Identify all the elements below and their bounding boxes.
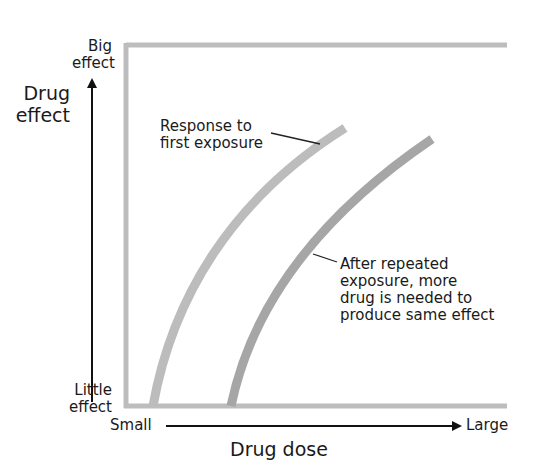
annotation-repeated-exposure: After repeated exposure, more drug is ne…	[340, 256, 494, 324]
y-axis-title: Drug effect	[14, 82, 70, 126]
leader-line-repeated	[313, 254, 337, 262]
plot-frame	[124, 43, 507, 408]
annotation-repeated-line1: After repeated	[340, 256, 494, 273]
annotation-first-line2: first exposure	[160, 135, 263, 152]
y-top-label: Big effect	[72, 38, 112, 72]
y-bottom-label-line2: effect	[60, 399, 112, 416]
annotation-repeated-line2: exposure, more	[340, 273, 494, 290]
leader-line-first	[271, 133, 320, 144]
x-right-label: Large	[466, 417, 508, 434]
y-bottom-label: Little effect	[60, 382, 112, 416]
y-axis-title-line1: Drug	[14, 82, 70, 104]
y-top-label-line1: Big	[72, 38, 112, 55]
annotation-first-line1: Response to	[160, 118, 263, 135]
annotation-repeated-line4: produce same effect	[340, 307, 494, 324]
annotation-repeated-line3: drug is needed to	[340, 290, 494, 307]
curve-first-exposure	[153, 128, 345, 406]
annotation-first-exposure: Response to first exposure	[160, 118, 263, 152]
x-axis-title: Drug dose	[230, 438, 328, 460]
x-left-label: Small	[110, 417, 152, 434]
y-top-label-line2: effect	[72, 55, 112, 72]
y-bottom-label-line1: Little	[60, 382, 112, 399]
y-axis-title-line2: effect	[14, 104, 70, 126]
